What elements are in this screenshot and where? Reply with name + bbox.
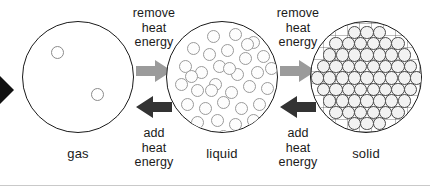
liquid-particle xyxy=(239,52,252,65)
liquid-particle xyxy=(261,82,274,95)
liquid-particle xyxy=(191,116,204,129)
liquid-particle xyxy=(187,42,200,55)
label-line-1: remove xyxy=(261,6,335,21)
states-of-matter-diagram: gas remove heat energy add heat energy l… xyxy=(0,0,430,187)
liquid-particle xyxy=(199,102,212,115)
solid-state-circle xyxy=(310,21,422,133)
liquid-particle xyxy=(211,114,224,127)
state-label-solid: solid xyxy=(310,146,422,161)
liquid-particle xyxy=(191,84,204,97)
solid-particle xyxy=(360,117,373,130)
arrow-right-partial-icon xyxy=(0,62,14,118)
arrow-left-icon-add-1 xyxy=(136,96,172,118)
liquid-particle xyxy=(185,70,198,83)
gas-particle xyxy=(51,46,64,59)
liquid-particle xyxy=(207,30,220,43)
liquid-particle xyxy=(247,114,260,127)
liquid-particle xyxy=(203,48,216,61)
liquid-particle xyxy=(181,98,194,111)
gas-particle xyxy=(91,88,104,101)
liquid-particle xyxy=(229,118,242,131)
liquid-particle xyxy=(205,84,218,97)
liquid-particle xyxy=(223,62,236,75)
liquid-particle xyxy=(221,44,234,57)
liquid-particle xyxy=(217,96,230,109)
label-line-1: remove xyxy=(117,6,191,21)
liquid-particle xyxy=(235,102,248,115)
solid-particle xyxy=(329,106,342,119)
label-line-1: add xyxy=(117,126,191,141)
bottom-divider xyxy=(0,185,430,186)
liquid-particle xyxy=(243,80,256,93)
liquid-particle xyxy=(265,62,278,75)
solid-particle xyxy=(391,106,404,119)
label-line-2: heat xyxy=(117,21,191,36)
liquid-particle xyxy=(217,130,230,133)
liquid-particle xyxy=(241,38,254,51)
liquid-particle xyxy=(251,66,264,79)
liquid-particle xyxy=(229,28,242,41)
liquid-particle xyxy=(253,98,266,111)
liquid-particle xyxy=(257,50,270,63)
